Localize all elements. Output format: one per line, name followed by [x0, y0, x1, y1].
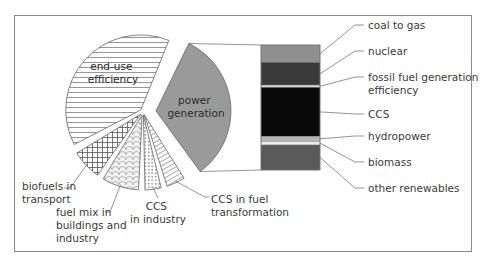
label-line: transformation [211, 206, 289, 218]
bar-segment-other-renewables [261, 145, 320, 170]
connector-top [189, 44, 261, 46]
label-ccs-in-industry: CCS in industry [130, 200, 186, 225]
label-line: generation [167, 107, 224, 119]
label-line: biomass [368, 156, 412, 168]
label-line: power [178, 94, 211, 106]
chart-svg: end-use efficiency power generation biof… [0, 0, 482, 265]
label-end-use-efficiency: end-use efficiency [88, 60, 138, 85]
label-line: end-use [90, 60, 132, 72]
bar-segment-nuclear [261, 63, 320, 86]
label-line: efficiency [88, 73, 138, 85]
bar-segment-ccs [261, 88, 320, 137]
leader-ccs [320, 112, 364, 114]
label-line: CCS in fuel [211, 193, 268, 205]
label-coal-to-gas: coal to gas [368, 19, 425, 31]
label-fossil-fuel-generation-efficiency: fossil fuel generation efficiency [368, 71, 482, 96]
label-biofuels-in-transport: biofuels in transport [22, 180, 79, 205]
label-line: transport [22, 193, 71, 205]
label-line: efficiency [368, 84, 418, 96]
label-line: other renewables [368, 182, 460, 194]
leader-hydropower [320, 136, 364, 139]
leader-ccs-in-fuel-transformation [175, 181, 209, 197]
label-line: buildings and [56, 219, 127, 231]
bar-segment-biomass [261, 141, 320, 145]
label-biomass: biomass [368, 156, 412, 168]
label-ccs-in-fuel-transformation: CCS in fuel transformation [211, 193, 289, 218]
leader-coal-to-gas [320, 25, 364, 54]
leader-fossil-fuel-generation-efficiency [320, 77, 364, 86]
leader-nuclear [320, 51, 364, 74]
label-line: hydropower [368, 130, 431, 142]
label-line: fuel mix in [56, 206, 111, 218]
label-line: nuclear [368, 45, 408, 57]
label-other-renewables: other renewables [368, 182, 460, 194]
label-nuclear: nuclear [368, 45, 408, 57]
label-fuel-mix: fuel mix in buildings and industry [56, 206, 130, 244]
connector-bottom [200, 170, 261, 172]
label-ccs: CCS [368, 108, 390, 120]
breakdown-bar [261, 45, 320, 170]
label-line: fossil fuel generation [368, 71, 478, 83]
bar-segment-hydropower [261, 136, 320, 141]
label-hydropower: hydropower [368, 130, 431, 142]
leader-biomass [320, 143, 364, 162]
label-line: industry [56, 232, 99, 244]
label-line: CCS [146, 200, 168, 212]
label-line: CCS [368, 108, 390, 120]
bar-segment-fossil-fuel-generation-efficiency [261, 85, 320, 88]
bar-segment-coal-to-gas [261, 45, 320, 63]
label-line: coal to gas [368, 19, 425, 31]
label-line: in industry [130, 213, 186, 225]
label-line: biofuels in [22, 180, 76, 192]
